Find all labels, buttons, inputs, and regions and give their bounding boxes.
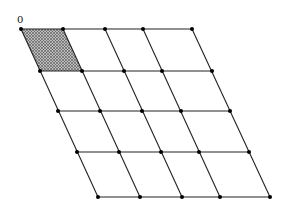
lattice-point	[122, 69, 126, 73]
slanted-line	[63, 29, 140, 197]
slanted-line	[143, 29, 220, 197]
lattice-point	[61, 27, 65, 31]
lattice-point	[218, 195, 222, 199]
lattice-point	[180, 195, 184, 199]
lattice-point	[160, 69, 164, 73]
lattice-diagram	[0, 0, 287, 211]
lattice-point	[140, 109, 144, 113]
lattice-point	[268, 195, 272, 199]
lattice-point	[247, 150, 251, 154]
lattice-point	[159, 150, 163, 154]
lattice-point	[197, 150, 201, 154]
lattice-point	[38, 69, 42, 73]
lattice-point	[75, 150, 79, 154]
lattice-point	[56, 109, 60, 113]
lattice-point	[179, 109, 183, 113]
lattice-point	[96, 195, 100, 199]
lattice-point	[210, 69, 214, 73]
lattice-point	[141, 27, 145, 31]
slanted-line	[192, 29, 270, 197]
lattice-point	[228, 109, 232, 113]
lattice-point	[117, 150, 121, 154]
lattice-point	[98, 109, 102, 113]
lattice-point	[19, 27, 23, 31]
lattice-point	[138, 195, 142, 199]
lattice-point	[190, 27, 194, 31]
lattice-point	[80, 69, 84, 73]
lattice-point	[103, 27, 107, 31]
slanted-line	[105, 29, 182, 197]
origin-label: 0	[17, 15, 23, 25]
